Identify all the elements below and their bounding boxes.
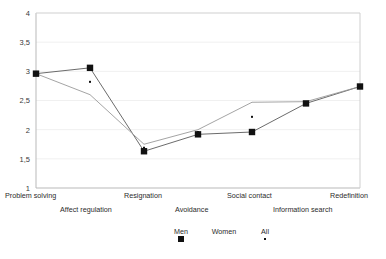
x-tick-label-avoidance: Avoidance <box>175 206 208 213</box>
x-tick-label-redefinition: Redefinition <box>330 192 368 199</box>
x-tick-label-social-contact: Social contact <box>227 192 272 199</box>
legend-marker-square-icon <box>178 236 184 242</box>
y-tick-label: 3,5 <box>4 39 30 47</box>
y-tick-label: 2,5 <box>4 97 30 105</box>
data-point-all <box>89 81 91 83</box>
data-point-all <box>305 102 307 104</box>
line-chart: 4 3,5 3 2,5 2 1,5 1 Problem solving Affe… <box>0 0 386 259</box>
series-line-men <box>36 68 360 151</box>
data-point-men <box>141 148 147 154</box>
legend-label-women: Women <box>204 228 244 235</box>
series-markers <box>33 65 363 155</box>
y-tick-label: 1,5 <box>4 156 30 164</box>
data-point-men <box>249 129 255 135</box>
x-tick-label-problem-solving: Problem solving <box>5 192 56 199</box>
legend-label-men: Men <box>164 228 198 235</box>
legend-item-all: All <box>252 228 278 235</box>
legend-item-men: Men <box>164 228 198 235</box>
y-tick-label: 3 <box>4 68 30 76</box>
y-tick-label: 2 <box>4 127 30 135</box>
data-point-all <box>143 147 145 149</box>
x-tick-label-information-search: Information search <box>273 206 333 213</box>
legend-item-women: Women <box>204 228 244 235</box>
data-point-all <box>197 131 199 133</box>
data-point-all <box>35 73 37 75</box>
data-point-all <box>251 116 253 118</box>
plot-area <box>0 0 386 259</box>
legend-marker-dot-icon <box>264 238 266 240</box>
legend-label-all: All <box>252 228 278 235</box>
x-tick-label-resignation: Resignation <box>124 192 162 199</box>
data-point-all <box>359 86 361 88</box>
data-point-men <box>87 65 93 71</box>
x-tick-label-affect-regulation: Affect regulation <box>60 206 112 213</box>
series-lines <box>36 68 360 151</box>
y-tick-label: 4 <box>4 10 30 18</box>
chart-legend: Men Women All <box>0 228 386 258</box>
